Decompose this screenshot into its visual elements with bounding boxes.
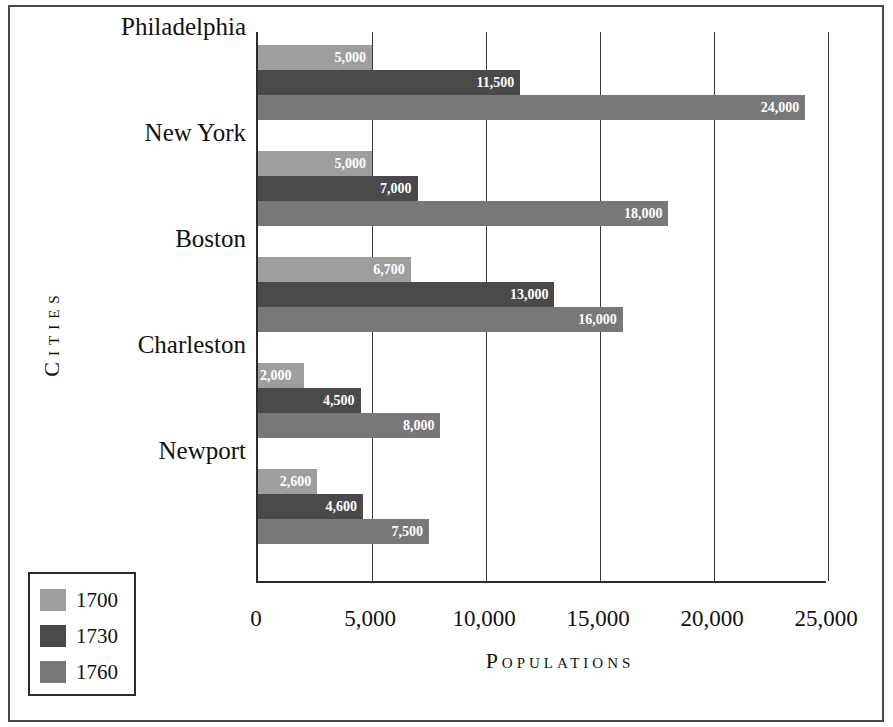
bar-value-label: 5,000 [335,50,367,66]
x-tick-label: 10,000 [452,606,515,632]
bar-value-label: 4,500 [323,393,355,409]
bar[interactable]: 18,000 [258,201,668,226]
category-axis-labels: PhiladelphiaNew YorkBostonCharlestonNewp… [0,0,246,600]
bar-value-label: 16,000 [578,312,617,328]
chart-page: PhiladelphiaNew YorkBostonCharlestonNewp… [0,0,893,727]
legend-swatch [40,625,66,647]
x-tick-label: 0 [250,606,262,632]
bar[interactable]: 5,000 [258,45,372,70]
bar-row: 8,000 [258,413,826,438]
bar[interactable]: 7,000 [258,176,418,201]
bar-row: 18,000 [258,201,826,226]
bar-value-label: 7,000 [380,181,412,197]
legend-item-1700[interactable]: 1700 [40,582,134,618]
bar[interactable]: 2,000 [258,363,304,388]
bar-value-label: 11,500 [476,75,514,91]
bar[interactable]: 16,000 [258,307,623,332]
bar[interactable]: 8,000 [258,413,440,438]
bar-value-label: 18,000 [624,206,663,222]
category-label-newport: Newport [6,437,246,465]
bar-value-label: 8,000 [403,418,435,434]
legend: 170017301760 [28,572,136,696]
x-tick-label: 5,000 [344,606,396,632]
bar[interactable]: 4,600 [258,494,363,519]
x-axis-tick-labels: 05,00010,00015,00020,00025,000 [256,606,876,640]
bar-group: 5,00011,50024,000 [258,45,826,120]
bar-row: 13,000 [258,282,826,307]
legend-item-1730[interactable]: 1730 [40,618,134,654]
legend-label: 1700 [76,588,118,613]
bar-value-label: 2,000 [260,368,292,384]
bar-row: 5,000 [258,45,826,70]
x-tick-label: 20,000 [680,606,743,632]
category-label-philadelphia: Philadelphia [6,13,246,41]
bar-value-label: 2,600 [280,474,312,490]
legend-swatch [40,589,66,611]
x-tick-label: 15,000 [566,606,629,632]
bar-row: 4,500 [258,388,826,413]
legend-swatch [40,661,66,683]
bar-row: 6,700 [258,257,826,282]
bar-row: 7,000 [258,176,826,201]
plot-area: 5,00011,50024,0005,0007,00018,0006,70013… [256,32,826,583]
bar[interactable]: 24,000 [258,95,805,120]
legend-label: 1760 [76,660,118,685]
gridline [828,32,829,581]
bar-value-label: 7,500 [392,524,424,540]
bar-row: 11,500 [258,70,826,95]
category-label-boston: Boston [6,225,246,253]
x-axis-title: Populations [300,648,820,674]
bar-row: 2,000 [258,363,826,388]
bar-group: 6,70013,00016,000 [258,257,826,332]
legend-item-1760[interactable]: 1760 [40,654,134,690]
bar-row: 24,000 [258,95,826,120]
category-label-new-york: New York [6,119,246,147]
legend-label: 1730 [76,624,118,649]
bar-row: 4,600 [258,494,826,519]
bar-row: 2,600 [258,469,826,494]
bar-value-label: 24,000 [761,100,800,116]
bar[interactable]: 5,000 [258,151,372,176]
bar-value-label: 5,000 [335,156,367,172]
bar[interactable]: 11,500 [258,70,520,95]
bar-value-label: 13,000 [510,287,549,303]
bar-row: 5,000 [258,151,826,176]
y-axis-title: Cities [39,253,65,413]
bar[interactable]: 6,700 [258,257,411,282]
bar-value-label: 4,600 [325,499,357,515]
bar-value-label: 6,700 [373,262,405,278]
bar-row: 16,000 [258,307,826,332]
bar-group: 2,0004,5008,000 [258,363,826,438]
bar[interactable]: 7,500 [258,519,429,544]
bar-group: 5,0007,00018,000 [258,151,826,226]
bar[interactable]: 4,500 [258,388,361,413]
bar[interactable]: 13,000 [258,282,554,307]
x-tick-label: 25,000 [794,606,857,632]
bar[interactable]: 2,600 [258,469,317,494]
bar-row: 7,500 [258,519,826,544]
bar-group: 2,6004,6007,500 [258,469,826,544]
